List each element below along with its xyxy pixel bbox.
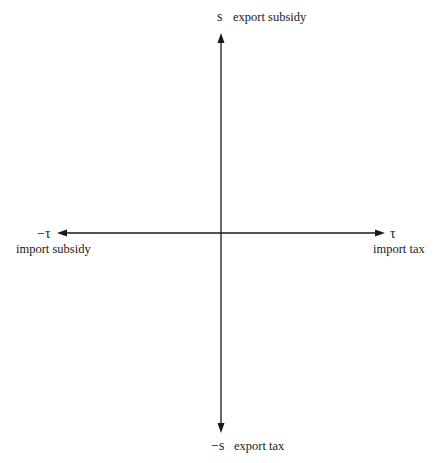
left-axis-label: import subsidy bbox=[16, 242, 91, 256]
arrow-right-icon bbox=[375, 230, 385, 237]
arrow-down-icon bbox=[218, 423, 225, 433]
right-axis-symbol: τ bbox=[390, 226, 396, 241]
right-axis-label: import tax bbox=[373, 242, 425, 256]
top-axis-symbol: s bbox=[217, 9, 222, 24]
top-axis-label: export subsidy bbox=[233, 10, 307, 24]
arrow-left-icon bbox=[57, 230, 67, 237]
left-axis-symbol: −τ bbox=[37, 226, 51, 241]
bottom-axis-symbol: −s bbox=[211, 438, 224, 453]
policy-axes-diagram: s export subsidy −τ import subsidy τ imp… bbox=[0, 0, 438, 463]
arrow-up-icon bbox=[218, 33, 225, 43]
bottom-axis-label: export tax bbox=[234, 439, 285, 453]
